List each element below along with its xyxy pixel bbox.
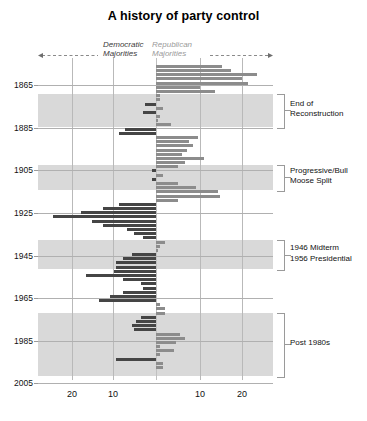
bar-1867: [156, 77, 242, 80]
bar-1991: [156, 337, 185, 340]
annotation-line: Post 1980s: [290, 338, 330, 349]
bar-1985: [132, 324, 156, 327]
bar-1863: [156, 69, 231, 72]
bar-1981: [141, 316, 156, 319]
bar-1941: [134, 232, 156, 235]
bar-1921: [156, 190, 218, 193]
bar-1961: [86, 274, 156, 277]
y-tick-label-2005: 2005: [0, 378, 33, 388]
bar-1989: [156, 333, 180, 336]
bar-1865: [156, 73, 257, 76]
annotation-line: 1956 Presidential: [290, 254, 352, 265]
y-tick-mark: [34, 383, 38, 384]
bar-1963: [123, 278, 156, 281]
y-tick-mark: [34, 128, 38, 129]
gridline-vertical: [200, 58, 201, 380]
bar-1901: [156, 149, 187, 152]
bar-1967: [143, 287, 156, 290]
bar-1903: [156, 153, 182, 156]
annotation-a3: 1946 Midterm1956 Presidential: [290, 243, 352, 264]
bar-1895: [156, 136, 198, 139]
bar-1891: [125, 128, 156, 131]
gridline-vertical: [72, 58, 73, 380]
bar-2005: [156, 366, 163, 369]
bar-1861: [156, 65, 222, 68]
x-tick-label-1: 10: [98, 389, 128, 399]
bar-1975: [156, 303, 160, 306]
bar-1951: [132, 253, 156, 256]
gridline-horizontal: [38, 383, 273, 384]
plot-area: [38, 58, 273, 380]
bar-1955: [116, 261, 156, 264]
annotation-line: 1946 Midterm: [290, 243, 352, 254]
chart-root: A history of party control Democratic Ma…: [0, 0, 367, 421]
bar-2001: [116, 358, 156, 361]
bar-1933: [53, 215, 156, 218]
bar-1957: [116, 266, 156, 269]
bar-1997: [156, 349, 174, 352]
y-tick-label-1945: 1945: [0, 251, 33, 261]
annotation-a1: End ofReconstruction: [290, 99, 343, 120]
bar-1931: [81, 211, 156, 214]
gridline-vertical: [242, 58, 243, 380]
bar-1987: [134, 328, 156, 331]
bar-1869: [156, 82, 248, 85]
y-tick-label-1905: 1905: [0, 165, 33, 175]
bar-1917: [156, 182, 178, 185]
bar-1995: [156, 345, 160, 348]
bar-1881: [156, 107, 163, 110]
legend-democratic-line1: Democratic: [103, 40, 143, 49]
bar-1947: [156, 245, 160, 248]
bar-1925: [156, 199, 178, 202]
bar-1873: [156, 90, 215, 93]
bar-1949: [156, 249, 158, 252]
bar-1875: [156, 94, 160, 97]
bar-1943: [143, 236, 156, 239]
bar-1923: [156, 195, 220, 198]
bar-1935: [92, 220, 156, 223]
bar-1893: [119, 132, 156, 135]
y-tick-label-1885: 1885: [0, 123, 33, 133]
x-tick-label-2: 10: [185, 389, 215, 399]
bar-1929: [103, 207, 156, 210]
bar-1945: [156, 241, 165, 244]
y-tick-label-1925: 1925: [0, 208, 33, 218]
bar-1979: [156, 312, 165, 315]
annotation-a2: Progressive/BullMoose Split: [290, 166, 348, 187]
bar-1927: [119, 203, 156, 206]
bar-1937: [103, 224, 156, 227]
bar-1983: [136, 320, 156, 323]
bar-1911: [152, 169, 156, 172]
y-tick-label-1965: 1965: [0, 293, 33, 303]
bar-1883: [143, 111, 156, 114]
bar-1897: [156, 140, 189, 143]
bar-1953: [123, 257, 156, 260]
bar-1905: [156, 157, 204, 160]
bar-1877: [156, 98, 160, 101]
bar-1907: [156, 161, 185, 164]
bar-1871: [156, 86, 200, 89]
bar-1913: [156, 174, 163, 177]
bar-1977: [156, 307, 165, 310]
bar-1889: [156, 123, 171, 126]
y-tick-mark: [34, 170, 38, 171]
bar-1965: [141, 282, 156, 285]
y-tick-label-1865: 1865: [0, 80, 33, 90]
chart-title: A history of party control: [0, 9, 367, 23]
bar-1887: [156, 119, 158, 122]
annotation-bracket: [277, 240, 285, 271]
bar-2003: [156, 362, 163, 365]
annotation-line: Progressive/Bull: [290, 166, 348, 177]
bar-1909: [156, 165, 178, 168]
annotation-line: Moose Split: [290, 176, 348, 187]
legend-republican-line1: Republican: [152, 40, 192, 49]
y-tick-mark: [34, 298, 38, 299]
y-tick-mark: [34, 213, 38, 214]
bar-1939: [127, 228, 156, 231]
bar-1973: [99, 299, 156, 302]
bar-1915: [152, 178, 156, 181]
bar-1919: [156, 186, 196, 189]
y-tick-mark: [34, 85, 38, 86]
bar-1899: [156, 144, 193, 147]
bar-1959: [114, 270, 156, 273]
